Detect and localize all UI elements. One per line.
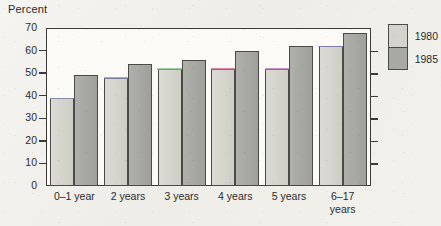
y-axis-title: Percent [8, 3, 47, 15]
bar-group [155, 28, 209, 186]
bar-cap-highlight [157, 68, 181, 70]
y-tick-mark [39, 140, 46, 142]
y-tick-label: 0 [31, 179, 37, 191]
bar-1980-4-years [211, 69, 235, 186]
bar-cap-highlight [265, 68, 289, 70]
bar-1985-2-years [128, 64, 152, 186]
bar-cap-highlight [50, 98, 74, 100]
y-tick-mark-right-20 [371, 141, 378, 143]
y-tick-label: 10 [25, 156, 37, 168]
y-tick-mark [39, 50, 46, 52]
y-tick-label: 20 [25, 134, 37, 146]
y-tick-mark [39, 163, 46, 165]
bar-group [316, 28, 370, 186]
bar-group [101, 28, 155, 186]
y-tick-mark-right-30 [371, 118, 378, 120]
y-tick-label: 30 [25, 111, 37, 123]
bar-1985-6-17-years [343, 33, 367, 186]
bar-cap-highlight [104, 77, 128, 79]
bar-1985-4-years [235, 51, 259, 186]
bar-1980-0-1-year [50, 98, 74, 186]
y-tick-mark-right-10 [371, 163, 378, 165]
legend-item-1980: 1980 [388, 24, 438, 47]
bar-1985-3-years [182, 60, 206, 186]
y-tick-label: 50 [25, 66, 37, 78]
y-axis: 706050403020100 [0, 28, 46, 186]
bar-chart: Percent 706050403020100 0–1 year2 years3… [0, 0, 441, 226]
x-label-2-years: 2 years [101, 190, 155, 203]
y-tick-mark-right-40 [371, 96, 378, 98]
bar-cap-highlight [211, 68, 235, 70]
bar-1985-5-years [289, 46, 313, 186]
y-tick-mark [39, 95, 46, 97]
legend-label-1985: 1985 [415, 53, 438, 65]
y-tick-label: 70 [25, 21, 37, 33]
x-label-0-1-year: 0–1 year [48, 190, 102, 203]
legend-item-1985: 1985 [388, 47, 438, 70]
x-axis-labels: 0–1 year2 years3 years4 years5 years6–17… [48, 190, 370, 224]
y-tick-mark [39, 72, 46, 74]
y-tick-label: 60 [25, 44, 37, 56]
legend: 19801985 [388, 24, 438, 70]
y-axis-right-ticks [371, 28, 383, 186]
bar-1980-6-17-years [319, 46, 343, 186]
x-label-4-years: 4 years [209, 190, 263, 203]
bar-1980-5-years [265, 69, 289, 186]
y-tick-label: 40 [25, 89, 37, 101]
x-label-6-17-years: 6–17years [316, 190, 370, 215]
legend-swatch-1980 [388, 24, 408, 47]
legend-label-1980: 1980 [415, 30, 438, 42]
x-label-5-years: 5 years [262, 190, 316, 203]
bar-1980-3-years [158, 69, 182, 186]
bars-layer [48, 28, 370, 186]
bar-1980-2-years [104, 78, 128, 186]
bar-group [262, 28, 316, 186]
legend-swatch-1985 [388, 47, 408, 70]
y-tick-mark-right-60 [371, 51, 378, 53]
bar-cap-highlight [318, 46, 342, 48]
y-tick-mark-right-50 [371, 73, 378, 75]
bar-1985-0-1-year [74, 75, 98, 186]
bar-group [209, 28, 263, 186]
y-tick-mark [39, 118, 46, 120]
x-label-3-years: 3 years [155, 190, 209, 203]
bar-group [48, 28, 102, 186]
